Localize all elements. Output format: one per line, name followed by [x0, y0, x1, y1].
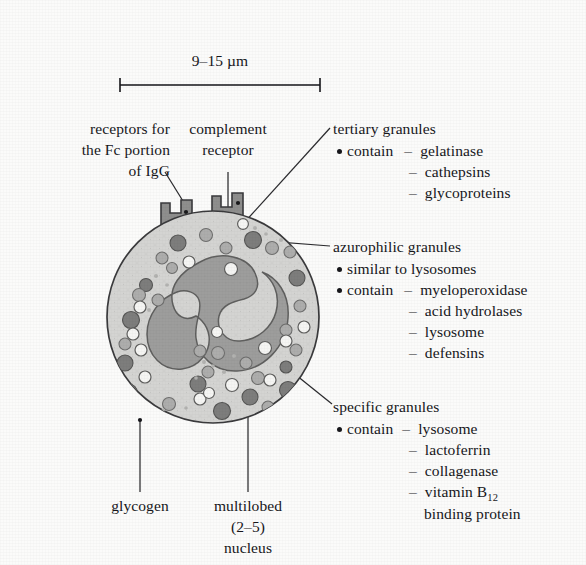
tertiary-item-0-lead: contain [347, 142, 393, 159]
specific-item-3-continuation: binding protein [424, 503, 521, 524]
specific-item-1-text: lactoferrin [425, 441, 491, 458]
tertiary-item-1-dash: – [409, 163, 417, 180]
specific-item-3: – vitamin B12 [409, 481, 498, 502]
azurophilic-item-1: contain – myeloperoxidase [337, 279, 528, 300]
azurophilic-item-3-dash: – [409, 323, 417, 340]
specific-item-1: – lactoferrin [409, 439, 491, 460]
bullet-icon [337, 267, 342, 272]
tertiary-item-2-text: glycoproteins [425, 184, 511, 201]
specific-item-0-text: lysosome [418, 420, 477, 437]
tertiary-title: tertiary granules [333, 118, 436, 139]
azurophilic-item-3: – lysosome [409, 321, 484, 342]
tertiary-item-0-text: gelatinase [420, 142, 483, 159]
specific-item-3-text: vitamin B [425, 483, 487, 500]
specific-title: specific granules [333, 396, 439, 417]
vitamin-b12-subscript: 12 [487, 492, 498, 503]
nucleus-label-line2: (2–5) [193, 516, 303, 537]
azurophilic-item-4-text: defensins [425, 344, 484, 361]
specific-item-3-dash: – [409, 483, 417, 500]
azurophilic-title: azurophilic granules [333, 236, 461, 257]
complement-receptor-label-line2: receptor [168, 139, 288, 160]
nucleus-label-line3: nucleus [193, 537, 303, 558]
azurophilic-item-4: – defensins [409, 342, 484, 363]
specific-item-0-dash: – [402, 420, 410, 437]
tertiary-item-0: contain – gelatinase [337, 140, 483, 161]
specific-item-2-dash: – [409, 462, 417, 479]
specific-item-0: contain – lysosome [337, 418, 478, 439]
azurophilic-item-2: – acid hydrolases [409, 300, 522, 321]
tertiary-item-2-dash: – [409, 184, 417, 201]
azurophilic-item-0-lead: similar to lysosomes [347, 260, 476, 277]
tertiary-item-1-text: cathepsins [425, 163, 491, 180]
azurophilic-item-2-dash: – [409, 302, 417, 319]
azurophilic-item-3-text: lysosome [425, 323, 484, 340]
bullet-icon [337, 288, 342, 293]
azurophilic-item-4-dash: – [409, 344, 417, 361]
scale-bar [120, 78, 320, 92]
nucleus-label-line1: multilobed [193, 495, 303, 516]
azurophilic-item-2-text: acid hydrolases [425, 302, 522, 319]
fc-receptor-label-line2: the Fc portion [10, 139, 170, 160]
specific-item-0-lead: contain [347, 420, 393, 437]
azurophilic-item-1-dash: – [404, 281, 412, 298]
figure-canvas: 9–15 µm receptors for the Fc portion of … [0, 0, 586, 565]
anchor-glycogen [138, 418, 142, 422]
complement-receptor-label-line1: complement [168, 118, 288, 139]
bullet-icon [337, 149, 342, 154]
glycogen-label: glycogen [85, 495, 195, 516]
bullet-icon [337, 427, 342, 432]
specific-item-2-text: collagenase [425, 462, 498, 479]
tertiary-item-2: – glycoproteins [409, 182, 511, 203]
fc-receptor-label-line3: of IgG [10, 160, 170, 181]
tertiary-item-0-dash: – [404, 142, 412, 159]
azurophilic-item-1-text: myeloperoxidase [420, 281, 527, 298]
tertiary-item-1: – cathepsins [409, 161, 490, 182]
specific-item-2: – collagenase [409, 460, 498, 481]
azurophilic-item-1-lead: contain [347, 281, 393, 298]
azurophilic-item-0: similar to lysosomes [337, 258, 476, 279]
specific-item-1-dash: – [409, 441, 417, 458]
fc-receptor-label-line1: receptors for [10, 118, 170, 139]
scale-bar-label: 9–15 µm [170, 50, 270, 71]
